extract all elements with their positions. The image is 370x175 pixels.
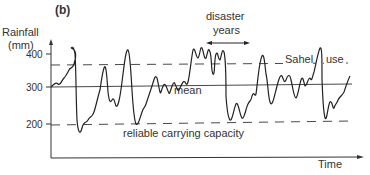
disaster-label-line1: disaster	[206, 10, 245, 22]
y-axis-label: Rainfall	[2, 26, 39, 38]
disaster-years-marker: disaster years	[206, 10, 250, 45]
panel-label: (b)	[55, 3, 70, 17]
y-ticks: 400 300 200	[26, 49, 51, 130]
reliable-capacity-line	[51, 121, 352, 125]
y-tick-200: 200	[26, 119, 43, 130]
y-tick-400: 400	[26, 49, 43, 60]
arrow-right-icon	[244, 41, 250, 45]
y-tick-300: 300	[26, 82, 43, 93]
disaster-label-line2: years	[213, 24, 240, 36]
x-axis-arrow-icon	[357, 155, 364, 159]
arrow-left-icon	[206, 41, 212, 45]
rainfall-chart: (b) Rainfall (mm) 400 300 200 disaster y…	[0, 0, 370, 175]
mean-label: mean	[174, 84, 202, 96]
sahel-label: Sahel	[285, 53, 313, 65]
reliable-capacity-label: reliable carrying capacity	[123, 127, 245, 139]
x-axis-label: Time	[318, 158, 342, 170]
use-label: use	[326, 53, 344, 65]
y-axis-arrow-icon	[49, 39, 53, 45]
